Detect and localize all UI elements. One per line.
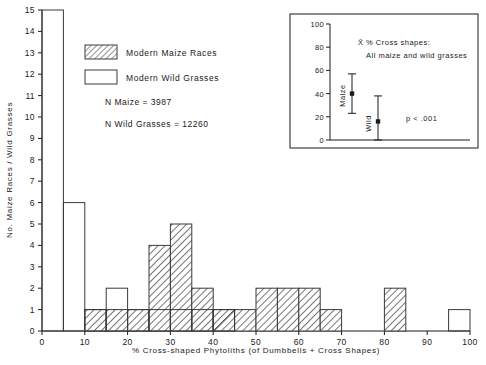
y-tick-label: 11: [25, 91, 35, 101]
x-axis-title: % Cross-shaped Phytoliths (of Dumbbells …: [132, 346, 380, 355]
bar-maize: [128, 310, 149, 331]
legend-label-wild: Modern Wild Grasses: [126, 73, 219, 83]
legend-count-wild: N Wild Grasses = 12260: [105, 119, 208, 129]
y-tick-label: 7: [30, 176, 35, 186]
legend-swatch-maize: [85, 45, 117, 59]
bar-maize: [256, 288, 277, 331]
legend-swatch-wild: [85, 70, 117, 84]
inset-title-line1: X̄ % Cross shapes:: [358, 38, 430, 47]
x-tick-label: 100: [462, 337, 477, 347]
inset-y-tick-label: 40: [315, 90, 324, 99]
x-tick-label: 10: [80, 337, 90, 347]
inset-group-label: Maize: [338, 84, 347, 107]
inset-y-tick-label: 60: [315, 66, 324, 75]
inset-y-tick-label: 0: [320, 136, 324, 145]
inset-title-line2: All maize and wild grasses: [366, 51, 467, 60]
bar-maize: [106, 310, 127, 331]
x-tick-label: 80: [379, 337, 389, 347]
figure-root: 0123456789101112131415 01020304050607080…: [0, 0, 486, 365]
legend-count-maize: N Maize = 3987: [105, 97, 172, 107]
y-tick-label: 3: [30, 262, 35, 272]
y-axis-ticks: 0123456789101112131415: [25, 5, 42, 336]
bar-wild: [42, 10, 63, 331]
x-axis-ticks: 0102030405060708090100: [39, 331, 477, 347]
y-tick-label: 12: [25, 69, 35, 79]
bar-maize: [384, 288, 405, 331]
y-axis-title: No. Maize Races / Wild Grasses: [5, 102, 14, 238]
bar-maize: [320, 310, 341, 331]
x-tick-label: 90: [422, 337, 432, 347]
bar-maize: [235, 310, 256, 331]
y-tick-label: 14: [25, 26, 35, 36]
y-tick-label: 8: [30, 155, 35, 165]
inset-group-label: Wild: [364, 115, 373, 132]
inset-y-axis-ticks: 020406080100: [311, 20, 330, 145]
inset-data-points: MaizeWild: [338, 74, 382, 140]
legend: Modern Maize Races Modern Wild Grasses N…: [85, 45, 219, 129]
y-tick-label: 10: [25, 112, 35, 122]
inset-y-tick-label: 20: [315, 113, 324, 122]
inset-pvalue: p < .001: [406, 114, 437, 123]
inset-y-tick-label: 80: [315, 43, 324, 52]
inset-panel: 020406080100 MaizeWild X̄ % Cross shapes…: [290, 14, 478, 148]
x-tick-label: 0: [39, 337, 44, 347]
inset-mean-point: [350, 91, 354, 95]
inset-y-tick-label: 100: [311, 20, 324, 29]
histogram-chart: 0123456789101112131415 01020304050607080…: [0, 0, 486, 365]
y-tick-label: 9: [30, 133, 35, 143]
y-tick-label: 6: [30, 198, 35, 208]
inset-border: [290, 14, 478, 148]
bar-wild: [449, 310, 470, 331]
y-tick-label: 4: [30, 240, 35, 250]
legend-label-maize: Modern Maize Races: [126, 48, 217, 58]
bar-maize: [299, 288, 320, 331]
bar-wild: [63, 203, 84, 331]
y-tick-label: 5: [30, 219, 35, 229]
bars-modern-maize-races: [85, 224, 406, 331]
bar-maize: [277, 288, 298, 331]
y-tick-label: 0: [30, 326, 35, 336]
inset-mean-point: [376, 119, 380, 123]
bar-maize: [85, 310, 106, 331]
y-tick-label: 13: [25, 48, 35, 58]
y-tick-label: 15: [25, 5, 35, 15]
y-tick-label: 2: [30, 283, 35, 293]
y-tick-label: 1: [30, 305, 35, 315]
bar-maize: [170, 224, 191, 331]
bar-maize: [149, 245, 170, 331]
